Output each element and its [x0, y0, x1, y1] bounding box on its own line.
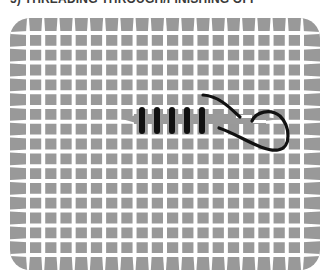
stitch	[154, 107, 160, 134]
stitch	[139, 107, 145, 134]
stitch	[199, 107, 205, 134]
stitch	[169, 107, 175, 134]
canvas-holes	[10, 18, 320, 270]
needlepoint-canvas-diagram	[0, 0, 328, 273]
stitch	[184, 107, 190, 134]
